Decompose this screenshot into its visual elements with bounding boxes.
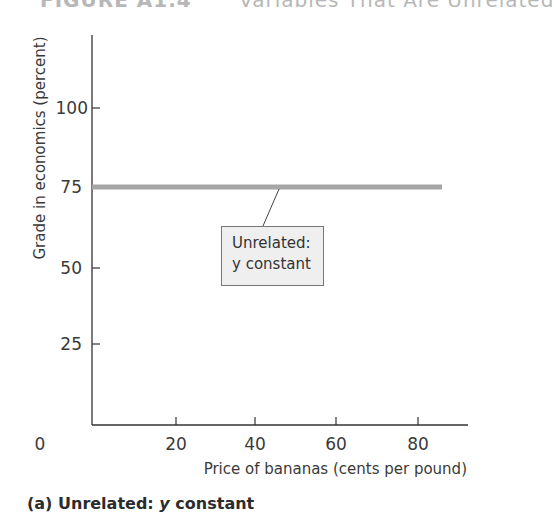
chart-caption: (a) Unrelated: y constant [27, 494, 254, 513]
callout-line-2: y constant [232, 254, 323, 275]
y-tick-label-50: 50 [60, 258, 82, 278]
callout-line-2-text: y constant [232, 255, 311, 273]
y-tick-label-75: 75 [60, 177, 82, 197]
caption-italic: y [159, 494, 169, 513]
x-tick-label-20: 20 [165, 434, 187, 454]
callout-box: Unrelated: y constant [221, 226, 324, 286]
caption-suffix: constant [170, 494, 254, 513]
x-tick-label-80: 80 [407, 434, 429, 454]
callout-line-1: Unrelated: [232, 233, 323, 254]
y-axis-title: Grade in economics (percent) [31, 36, 49, 259]
x-tick-label-0: 0 [35, 434, 46, 454]
x-tick-label-60: 60 [325, 434, 347, 454]
x-axis-title: Price of bananas (cents per pound) [204, 460, 467, 478]
y-tick-label-100: 100 [56, 98, 88, 118]
caption-prefix: (a) Unrelated: [27, 494, 159, 513]
y-tick-label-25: 25 [60, 334, 82, 354]
x-tick-label-40: 40 [244, 434, 266, 454]
callout-leader [263, 189, 279, 226]
